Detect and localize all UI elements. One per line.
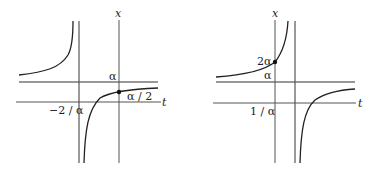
- left-t-intercept-label: −2 / α: [49, 104, 84, 117]
- right-graph: x t α 1 / α 2α: [213, 7, 363, 163]
- right-point-marker: [273, 60, 277, 64]
- right-t-axis-label: t: [358, 97, 363, 110]
- left-asymptote-label: α: [109, 70, 117, 83]
- left-curve-upper-branch: [19, 21, 73, 75]
- left-x-axis-label: x: [115, 7, 122, 20]
- left-t-axis-label: t: [162, 96, 167, 109]
- left-point-marker: [117, 90, 121, 94]
- right-curve-upper-branch: [216, 21, 288, 77]
- right-asymptote-label: α: [264, 69, 272, 82]
- right-point-label: 2α: [257, 55, 272, 68]
- right-curve-lower-branch: [300, 89, 355, 163]
- right-t-intercept-label: 1 / α: [250, 105, 276, 118]
- hyperbola-figures: x t α −2 / α α / 2 x t α 1 / α 2α: [0, 0, 375, 176]
- left-graph: x t α −2 / α α / 2: [16, 7, 167, 163]
- right-x-axis-label: x: [272, 7, 279, 20]
- left-point-label: α / 2: [127, 90, 152, 103]
